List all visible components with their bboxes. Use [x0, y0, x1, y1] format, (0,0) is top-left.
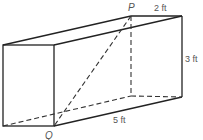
diagonal-pq — [54, 16, 131, 126]
height-label: 3 ft — [185, 54, 198, 64]
point-q-label: Q — [45, 130, 53, 140]
top-right-edge — [54, 16, 182, 45]
point-p-label: P — [128, 2, 135, 13]
hidden-bottom-left-edge — [3, 96, 131, 126]
prism-diagram: P 2 ft 3 ft 5 ft Q — [0, 0, 203, 140]
width-label: 2 ft — [154, 3, 167, 13]
top-left-edge — [3, 16, 131, 45]
front-face — [3, 45, 54, 126]
hidden-back-bottom-edge — [131, 96, 182, 97]
length-label: 5 ft — [113, 115, 126, 125]
